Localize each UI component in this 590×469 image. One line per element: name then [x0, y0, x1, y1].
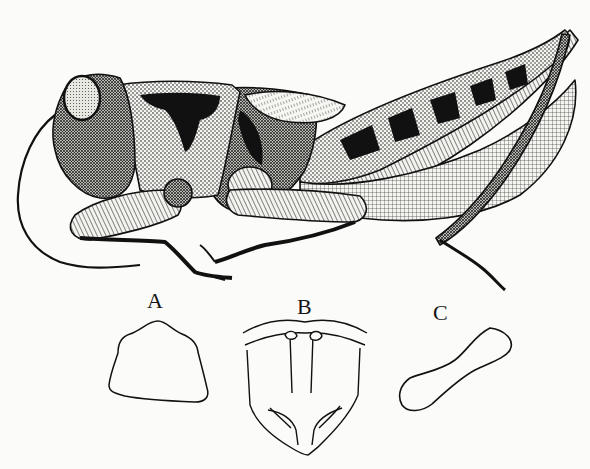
figure-b-outline: [243, 320, 367, 455]
compound-eye: [64, 76, 100, 120]
mid-tibia: [215, 222, 355, 262]
mid-tarsus: [200, 245, 215, 262]
figure-c-outline: [400, 328, 512, 411]
figure-a-label: A: [147, 290, 163, 312]
grasshopper-body: [18, 30, 578, 290]
grasshopper-illustration: [0, 0, 590, 469]
figure-a-outline: [109, 321, 208, 402]
figure-c-label: C: [433, 302, 448, 324]
mid-femur: [226, 189, 366, 222]
figure-b-label: B: [297, 296, 312, 318]
fore-tibia: [80, 238, 232, 278]
illustration-plate: A B C: [0, 0, 590, 469]
fore-coxa: [164, 179, 192, 207]
hind-tarsus: [440, 240, 505, 290]
